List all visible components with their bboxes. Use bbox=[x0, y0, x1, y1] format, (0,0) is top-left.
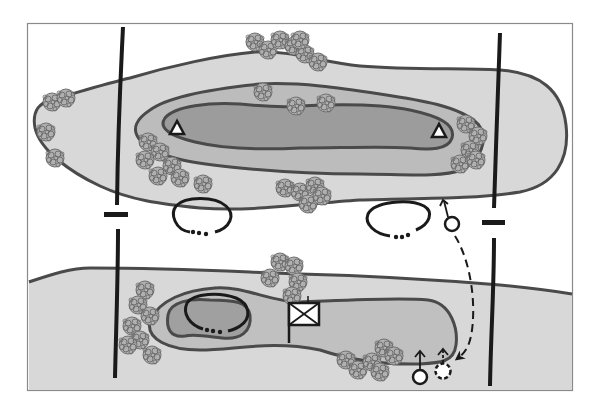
tree-interior-1 bbox=[254, 83, 272, 101]
tree-single-lower bbox=[194, 175, 212, 193]
boundary-tick-left bbox=[104, 212, 128, 217]
tree-interior-3 bbox=[317, 94, 335, 112]
tree-interior-2 bbox=[287, 97, 305, 115]
upper-summit-contour bbox=[163, 104, 453, 149]
terrain-diagram bbox=[0, 0, 599, 410]
lower-inner-ridge bbox=[168, 300, 251, 339]
boundary-tick-right bbox=[482, 220, 505, 225]
